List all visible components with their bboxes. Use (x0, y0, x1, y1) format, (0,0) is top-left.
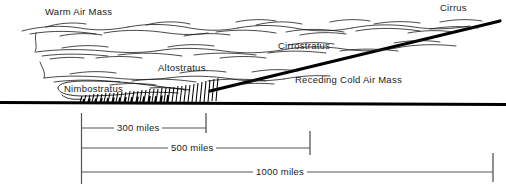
label-altostratus: Altostratus (158, 63, 206, 73)
warm-front-diagram: Warm Air Mass Cirrus Cirrostratus Altost… (0, 0, 506, 195)
scale-label-300: 300 miles (114, 123, 162, 133)
cirrus-left-tail (35, 33, 36, 52)
scale-label-500: 500 miles (168, 143, 216, 153)
label-cirrus: Cirrus (440, 3, 467, 13)
label-receding-cold-air-mass: Receding Cold Air Mass (295, 75, 402, 85)
label-nimbostratus: Nimbostratus (64, 84, 123, 94)
diagram-artwork (0, 0, 506, 195)
label-cirrostratus: Cirrostratus (278, 41, 330, 51)
cirrostratus-cloud-band (36, 41, 456, 59)
ground-line (0, 103, 506, 105)
label-warm-air-mass: Warm Air Mass (45, 7, 112, 17)
cirrus-cloud-band (22, 20, 482, 36)
scale-label-1000: 1000 miles (253, 167, 307, 177)
